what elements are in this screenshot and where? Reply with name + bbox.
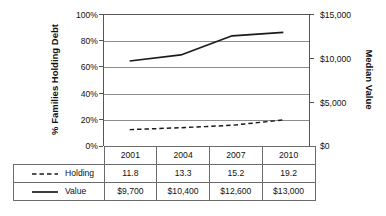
right-tickmark-5000 (310, 102, 314, 103)
series-value-line (130, 32, 284, 61)
left-axis-title-text: % Families Holding Debt (49, 24, 60, 135)
left-tick-40: 40% (62, 90, 98, 99)
cell-holding-2007: 15.2 (210, 165, 263, 183)
cell-value-2007: $12,600 (210, 183, 263, 201)
table-header-corner (14, 147, 105, 165)
table-header-2001: 2001 (104, 147, 157, 165)
series-holding-line (130, 120, 284, 130)
legend-cell-value: Value (14, 183, 105, 201)
left-tick-60: 60% (62, 63, 98, 72)
cell-value-2010: $13,000 (262, 183, 315, 201)
right-tick-0: $0 (320, 142, 364, 151)
table-header-2004: 2004 (157, 147, 210, 165)
cell-holding-2004: 13.3 (157, 165, 210, 183)
cell-value-2004: $10,400 (157, 183, 210, 201)
table-header-2007: 2007 (210, 147, 263, 165)
cell-holding-2010: 19.2 (262, 165, 315, 183)
solid-line-icon (32, 189, 58, 195)
right-axis-title-text: Median Value (364, 49, 375, 109)
table-header-row: 2001 2004 2007 2010 (14, 147, 316, 165)
right-axis-tick-labels: $15,000 $10,000 $5,000 $0 (320, 0, 364, 216)
right-axis-title: Median Value (362, 13, 376, 146)
legend-cell-holding: Holding (14, 165, 105, 183)
left-axis-title: % Families Holding Debt (47, 13, 61, 146)
right-tickmark-15000 (310, 14, 314, 15)
cell-value-2001: $9,700 (104, 183, 157, 201)
legend-label-value: Value (65, 187, 86, 196)
left-tick-20: 20% (62, 116, 98, 125)
series-lines (104, 15, 309, 146)
left-tick-80: 80% (62, 37, 98, 46)
right-tickmark-10000 (310, 58, 314, 59)
right-tick-10000: $10,000 (320, 55, 364, 64)
plot-area (103, 14, 310, 146)
legend-label-holding: Holding (65, 169, 94, 178)
table-header-2010: 2010 (262, 147, 315, 165)
left-tick-100: 100% (62, 11, 98, 20)
table-row: Value $9,700 $10,400 $12,600 $13,000 (14, 183, 316, 201)
cell-holding-2001: 11.8 (104, 165, 157, 183)
right-tick-15000: $15,000 (320, 11, 364, 20)
table-row: Holding 11.8 13.3 15.2 19.2 (14, 165, 316, 183)
chart-figure: % Families Holding Debt Median Value 100… (0, 0, 386, 216)
dashed-line-icon (32, 171, 58, 177)
right-tick-5000: $5,000 (320, 99, 364, 108)
data-table: 2001 2004 2007 2010 Holding (13, 146, 316, 201)
